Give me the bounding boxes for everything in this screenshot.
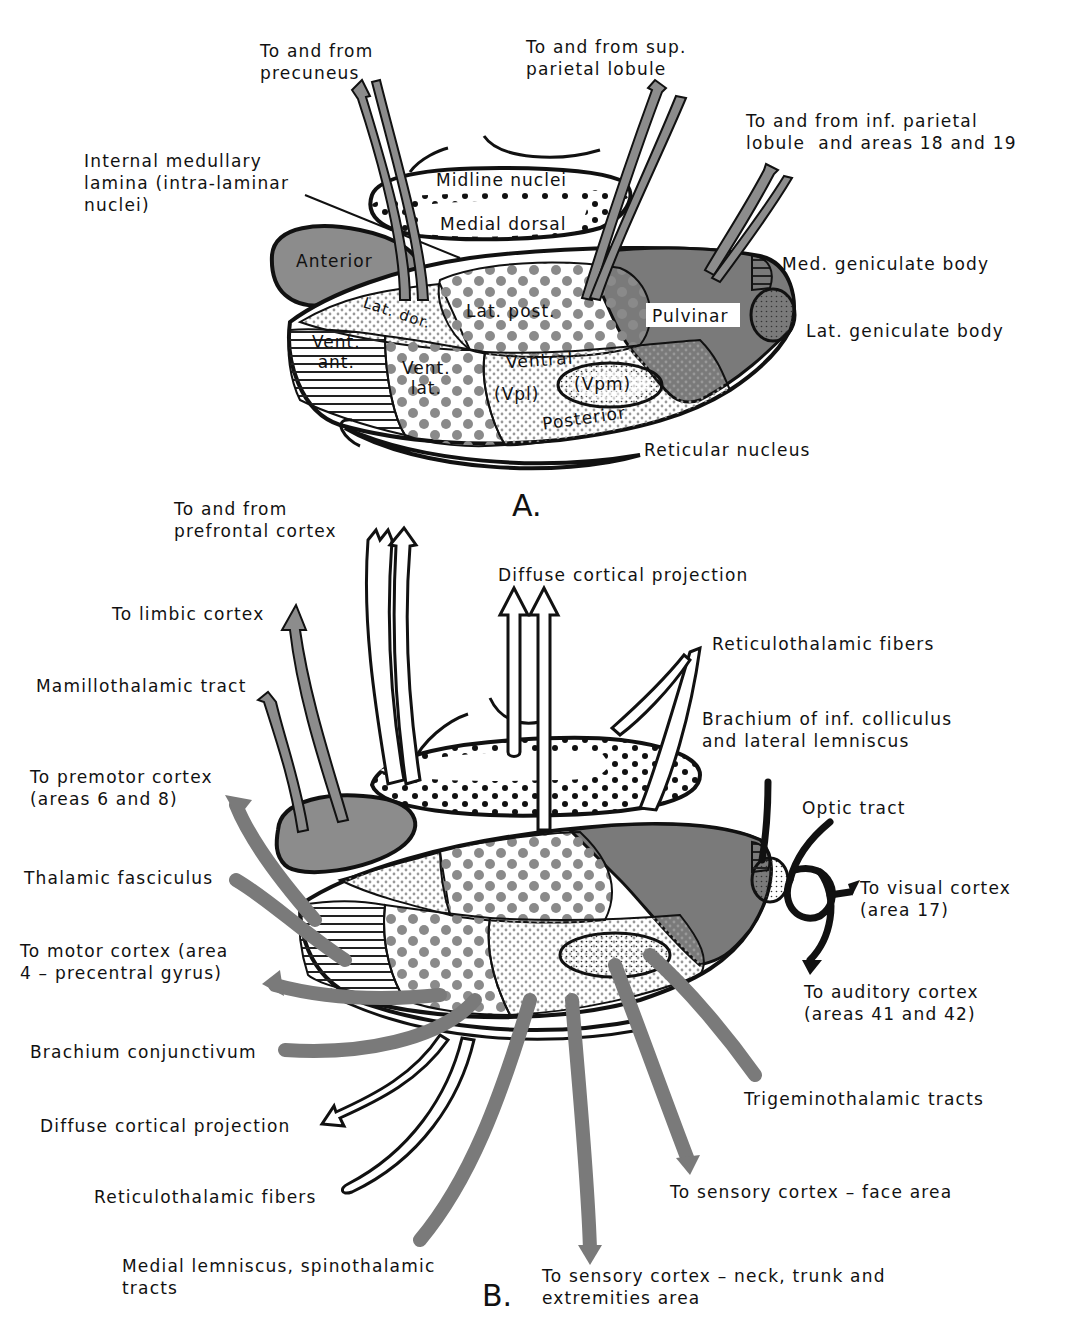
label-sensory-neck-trunk: To sensory cortex – neck, trunk and extr… <box>542 1265 886 1309</box>
nucleus-vpm: (Vpm) <box>574 374 631 394</box>
label-visual-cortex: To visual cortex (area 17) <box>860 877 1011 921</box>
nucleus-vent-ant: Vent. ant. <box>312 332 361 372</box>
nucleus-anterior: Anterior <box>296 251 373 271</box>
label-mamillothalamic: Mamillothalamic tract <box>36 675 247 697</box>
panel-a-letter: A. <box>512 488 542 523</box>
label-medial-lemniscus: Medial lemniscus, spinothalamic tracts <box>122 1255 435 1299</box>
label-auditory-cortex: To auditory cortex (areas 41 and 42) <box>804 981 979 1025</box>
label-lat-geniculate: Lat. geniculate body <box>806 320 1004 342</box>
label-precuneus: To and from precuneus <box>260 40 373 84</box>
label-sensory-face: To sensory cortex – face area <box>670 1181 952 1203</box>
nucleus-pulvinar: Pulvinar <box>648 306 732 326</box>
label-med-geniculate: Med. geniculate body <box>782 253 989 275</box>
nucleus-vent-lat: Vent. lat. <box>402 358 451 398</box>
label-reticulothalamic-top: Reticulothalamic fibers <box>712 633 935 655</box>
label-thalamic-fasciculus: Thalamic fasciculus <box>24 867 213 889</box>
label-limbic: To limbic cortex <box>112 603 264 625</box>
label-motor-cortex: To motor cortex (area 4 – precentral gyr… <box>20 940 229 984</box>
label-sup-parietal: To and from sup. parietal lobule <box>526 36 687 80</box>
label-reticulothalamic-bottom: Reticulothalamic fibers <box>94 1186 317 1208</box>
nucleus-lat-post: Lat. post. <box>466 301 555 321</box>
label-prefrontal: To and from prefrontal cortex <box>174 498 337 542</box>
label-premotor: To premotor cortex (areas 6 and 8) <box>30 766 213 810</box>
label-brachium-inf-colliculus: Brachium of inf. colliculus and lateral … <box>702 708 952 752</box>
label-brachium-conjunctivum: Brachium conjunctivum <box>30 1041 257 1063</box>
panel-a-figure <box>272 80 795 468</box>
nucleus-midline: Midline nuclei <box>436 170 567 190</box>
label-reticular-nucleus: Reticular nucleus <box>644 439 811 461</box>
panel-b-letter: B. <box>482 1278 512 1313</box>
label-inf-parietal: To and from inf. parietal lobule and are… <box>746 110 1017 154</box>
nucleus-vpl: (Vpl) <box>494 384 539 404</box>
label-optic-tract: Optic tract <box>802 797 906 819</box>
label-diffuse-top: Diffuse cortical projection <box>498 564 749 586</box>
label-internal-medullary-lamina: Internal medullary lamina (intra-laminar… <box>84 150 289 216</box>
label-diffuse-bottom: Diffuse cortical projection <box>40 1115 291 1137</box>
label-trigeminothalamic: Trigeminothalamic tracts <box>744 1088 984 1110</box>
nucleus-medial-dorsal: Medial dorsal <box>440 214 566 234</box>
